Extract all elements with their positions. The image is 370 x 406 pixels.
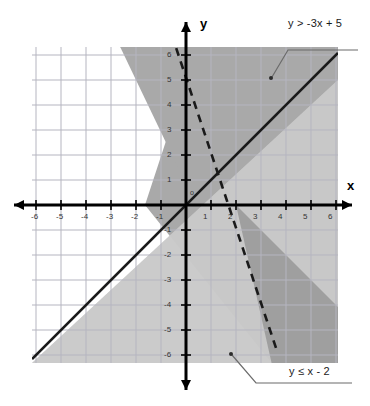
y-tick-label: -6 xyxy=(164,350,171,359)
y-axis-arrow-up xyxy=(181,22,191,32)
y-tick-label: 5 xyxy=(167,75,171,84)
x-tick-label: 5 xyxy=(303,212,307,221)
upper-inequality-label: y > -3x + 5 xyxy=(288,17,342,29)
x-tick-label: 4 xyxy=(278,212,282,221)
y-tick-label: -2 xyxy=(164,250,171,259)
x-tick-label: -2 xyxy=(131,212,138,221)
x-tick-label: -3 xyxy=(106,212,113,221)
x-tick-label: 1 xyxy=(203,212,207,221)
x-tick-label: 3 xyxy=(253,212,257,221)
y-tick-label: -3 xyxy=(164,275,171,284)
y-tick-label: 4 xyxy=(167,100,171,109)
y-tick-label: 2 xyxy=(167,150,171,159)
leader-dot-upper xyxy=(269,76,273,80)
lower-inequality-label: y ≤ x - 2 xyxy=(289,365,330,377)
leader-dot-lower xyxy=(229,352,233,356)
x-tick-label: -5 xyxy=(56,212,63,221)
y-tick-label: 3 xyxy=(167,125,171,134)
y-tick-label: -4 xyxy=(164,300,171,309)
y-tick-label: -5 xyxy=(164,325,171,334)
x-tick-label: -4 xyxy=(81,212,88,221)
graph-canvas: y x o y > -3x + 5 y ≤ x - 2 -6-5-4-3-2-1… xyxy=(0,0,370,406)
x-axis-label: x xyxy=(347,178,354,193)
coordinate-plane xyxy=(0,0,370,406)
y-tick-label: 1 xyxy=(167,175,171,184)
x-axis-arrow-right xyxy=(342,200,352,210)
x-tick-label: 6 xyxy=(328,212,332,221)
x-axis-arrow-left xyxy=(14,200,24,210)
y-tick-label: -1 xyxy=(164,225,171,234)
x-tick-label: -1 xyxy=(156,212,163,221)
x-tick-label: 2 xyxy=(228,212,232,221)
y-axis-arrow-down xyxy=(181,380,191,390)
y-axis-label: y xyxy=(200,16,207,31)
x-tick-label: -6 xyxy=(31,212,38,221)
y-tick-label: 6 xyxy=(167,50,171,59)
origin-label: o xyxy=(190,189,194,196)
